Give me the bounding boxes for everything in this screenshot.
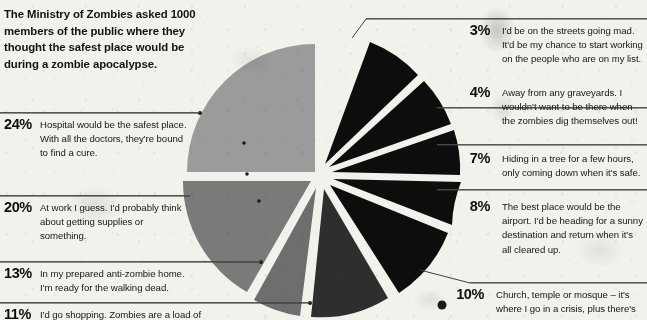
callout-text: Away from any graveyards. I wouldn't wan… [502,86,644,129]
callout-text: At work I guess. I'd probably think abou… [40,201,192,244]
callout-text: Hiding in a tree for a few hours, only c… [502,152,644,180]
callout-tree: 7% Hiding in a tree for a few hours, onl… [448,152,644,180]
callout-text: I'd be on the streets going mad. It'd be… [502,24,644,67]
callout-church: 10% Church, temple or mosque – it's wher… [442,288,644,316]
callout-percent: 24% [4,118,40,161]
callout-airport: 8% The best place would be the airport. … [448,200,644,257]
callout-prepared-home: 13% In my prepared anti-zombie home. I'm… [4,267,192,295]
divider [366,18,647,19]
divider [0,302,310,303]
divider [0,261,262,262]
callout-percent: 20% [4,201,40,244]
callout-percent: 11% [4,308,40,320]
callout-percent: 13% [4,267,40,295]
callout-text: Church, temple or mosque – it's where I … [496,288,644,316]
pie-slice-hospital [187,44,315,172]
callout-percent: 3% [448,24,502,67]
callout-streets: 3% I'd be on the streets going mad. It'd… [448,24,644,67]
callout-text: Hospital would be the safest place. With… [40,118,192,161]
divider [0,112,200,113]
callout-text: The best place would be the airport. I'd… [502,200,644,257]
callout-text: In my prepared anti-zombie home. I'm rea… [40,267,192,295]
callout-graveyards: 4% Away from any graveyards. I wouldn't … [448,86,644,129]
callout-percent: 8% [448,200,502,257]
divider [0,195,190,196]
callout-text: I'd go shopping. Zombies are a load of [40,308,240,320]
divider [437,144,647,145]
divider [437,189,647,190]
divider [470,282,647,283]
callout-percent: 7% [448,152,502,180]
callout-shopping: 11% I'd go shopping. Zombies are a load … [4,308,240,320]
callout-percent: 10% [442,288,496,316]
callout-hospital: 24% Hospital would be the safest place. … [4,118,192,161]
callout-at-work: 20% At work I guess. I'd probably think … [4,201,192,244]
page-title: The Ministry of Zombies asked 1000 membe… [4,6,200,72]
callout-percent: 4% [448,86,502,129]
